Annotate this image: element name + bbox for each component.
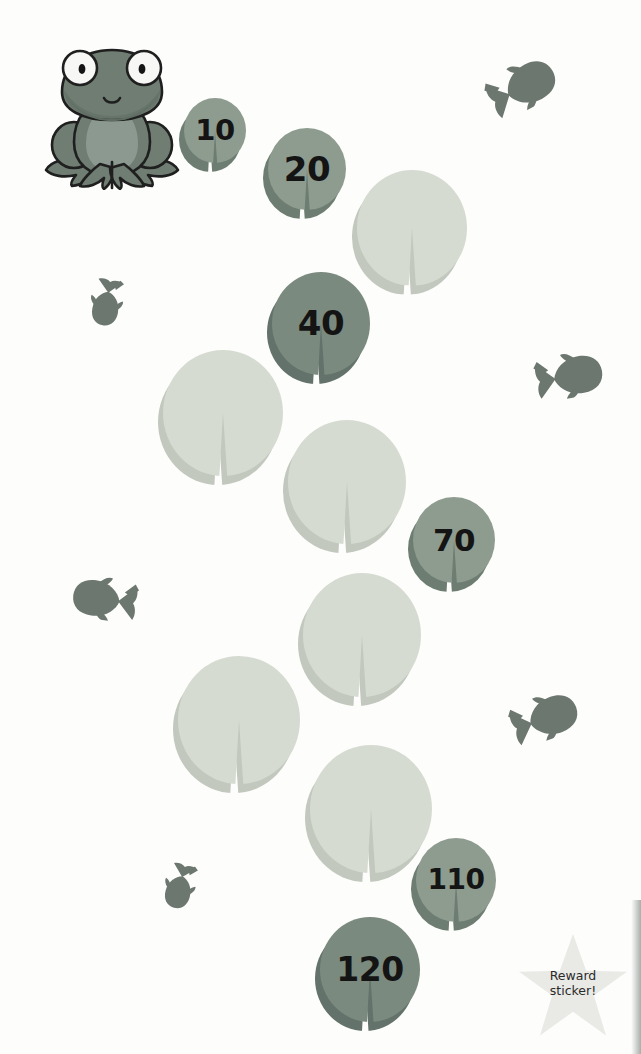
reward-sticker-star[interactable]: Reward sticker! [518,934,628,1042]
fish-right-middle-icon [527,342,611,404]
lily-pad-number [163,350,283,476]
frog-character [42,42,182,194]
lily-pad-number: 40 [272,272,370,375]
lily-pad-number [310,745,432,873]
pad-60[interactable] [288,420,406,544]
fish-top-right-icon [476,44,566,125]
reward-sticker-line2: sticker! [518,983,628,998]
pad-40[interactable]: 40 [272,272,370,375]
pad-10[interactable]: 10 [184,98,246,163]
worksheet-page: 10204070110120 Reward sticker! [0,0,641,1054]
fish-left-middle-icon [67,567,143,624]
lily-pad-number: 110 [416,838,496,922]
pad-110[interactable]: 110 [416,838,496,922]
lily-pad-number [303,573,421,697]
pad-50[interactable] [163,350,283,476]
fish-left-upper-icon [70,272,148,333]
pad-90[interactable] [178,656,300,784]
fish-right-lower-icon [502,679,587,751]
lily-pad-number: 120 [320,917,420,1022]
reward-sticker-line1: Reward [518,968,628,983]
page-edge-shading [631,900,641,1054]
lily-pad-number: 10 [184,98,246,163]
pad-70[interactable]: 70 [413,497,495,583]
lily-pad-number [178,656,300,784]
lily-pad-number [288,420,406,544]
fish-left-bottom-icon [142,855,222,919]
pad-30[interactable] [357,170,467,286]
lily-pad-number: 20 [268,128,346,210]
pad-80[interactable] [303,573,421,697]
reward-sticker-text: Reward sticker! [518,968,628,998]
pad-120[interactable]: 120 [320,917,420,1022]
lily-pad-number: 70 [413,497,495,583]
lily-pad-number [357,170,467,286]
pad-20[interactable]: 20 [268,128,346,210]
pad-100[interactable] [310,745,432,873]
